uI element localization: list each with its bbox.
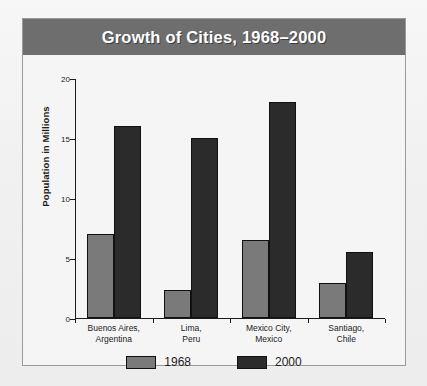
category-label-line: Peru xyxy=(153,334,231,345)
chart-panel: Growth of Cities, 1968–2000 Population i… xyxy=(22,18,406,366)
category-label-line: Mexico xyxy=(230,334,308,345)
category-label-line: Argentina xyxy=(75,334,153,345)
legend-item: 1968 xyxy=(126,355,191,369)
y-tick-label: 0 xyxy=(66,315,70,324)
y-axis-line xyxy=(75,79,76,319)
bar xyxy=(346,252,373,318)
category-label-line: Chile xyxy=(308,334,386,345)
y-tick-label: 5 xyxy=(66,255,70,264)
bar xyxy=(269,102,296,318)
legend-swatch xyxy=(126,356,156,369)
y-tick-label: 10 xyxy=(61,195,70,204)
y-tick-mark xyxy=(70,79,75,80)
category-label: Buenos Aires,Argentina xyxy=(75,323,153,345)
chart-title-bar: Growth of Cities, 1968–2000 xyxy=(23,19,405,55)
x-end-tick xyxy=(385,319,386,323)
category-label: Lima,Peru xyxy=(153,323,231,345)
legend-swatch xyxy=(237,356,267,369)
bar xyxy=(114,126,141,318)
y-axis-title: Population in Millions xyxy=(40,97,51,217)
bar xyxy=(319,283,346,318)
legend-label: 1968 xyxy=(164,355,191,369)
chart-legend: 19682000 xyxy=(23,355,405,369)
category-label-line: Buenos Aires, xyxy=(75,323,153,334)
chart-title: Growth of Cities, 1968–2000 xyxy=(102,28,327,47)
category-label: Mexico City,Mexico xyxy=(230,323,308,345)
category-label-line: Mexico City, xyxy=(230,323,308,334)
category-label-line: Santiago, xyxy=(308,323,386,334)
bar xyxy=(164,290,191,318)
bar xyxy=(191,138,218,318)
bar xyxy=(87,234,114,318)
plot-region: Population in Millions 05101520 Buenos A… xyxy=(23,55,405,367)
bar xyxy=(242,240,269,318)
legend-item: 2000 xyxy=(237,355,302,369)
category-label: Santiago,Chile xyxy=(308,323,386,345)
axes-area: 05101520 xyxy=(75,79,385,319)
y-tick-mark xyxy=(70,199,75,200)
y-tick-mark xyxy=(70,259,75,260)
y-tick-label: 15 xyxy=(61,135,70,144)
legend-label: 2000 xyxy=(275,355,302,369)
page-background: Growth of Cities, 1968–2000 Population i… xyxy=(0,0,427,386)
y-tick-mark xyxy=(70,139,75,140)
category-label-line: Lima, xyxy=(153,323,231,334)
y-tick-label: 20 xyxy=(61,75,70,84)
